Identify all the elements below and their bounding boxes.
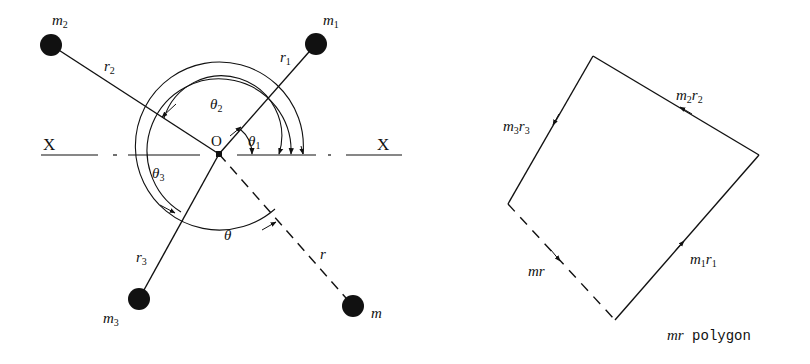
radius-r-dashed-line: [219, 154, 353, 306]
mr-polygon-diagram: m1r1 m2r2 m3r3 mr mr polygon: [503, 56, 759, 344]
x-axis-label-left: X: [43, 135, 55, 154]
label-theta2: θ2: [210, 96, 222, 114]
label-theta1: θ1: [248, 133, 260, 151]
theta-end-arrow-icon: [301, 146, 303, 154]
label-m2: m2: [52, 12, 68, 30]
mass-m3: [128, 288, 150, 310]
label-r2: r2: [104, 58, 115, 76]
vector-m2r2: [593, 56, 759, 155]
mass-m1: [305, 33, 327, 55]
vector-m1r1: [615, 155, 759, 320]
diagram-canvas: X X O m1 m2 m3 m r1 r2 r3 r: [0, 0, 810, 364]
label-m3: m3: [103, 310, 119, 328]
m2r2-arrow-icon: [680, 107, 692, 114]
balancing-masses-diagram: X X O m1 m2 m3 m r1 r2 r3 r: [40, 12, 402, 328]
mass-m2: [40, 34, 62, 56]
label-m3r3: m3r3: [503, 118, 530, 136]
label-m1r1: m1r1: [690, 251, 717, 269]
origin-label: O: [211, 133, 222, 149]
label-m2r2: m2r2: [676, 87, 703, 105]
label-m: m: [371, 305, 382, 321]
angle-theta2-arc: [164, 76, 282, 154]
label-theta3: θ3: [152, 165, 164, 183]
m3r3-arrow-icon: [553, 114, 559, 125]
label-r: r: [320, 246, 326, 262]
polygon-caption: mr polygon: [667, 327, 751, 344]
theta-arrow-icon: [262, 222, 276, 230]
m1r1-arrow-icon: [675, 241, 684, 251]
radius-r2-line: [51, 45, 219, 154]
mass-m: [342, 295, 364, 317]
vector-mr-dashed: [508, 204, 615, 320]
x-axis-label-right: X: [377, 135, 389, 154]
radius-r1-line: [219, 44, 316, 154]
label-r3: r3: [136, 249, 147, 267]
label-theta: θ: [224, 227, 232, 243]
origin-point: [216, 151, 222, 157]
label-m1: m1: [323, 12, 339, 30]
label-mr: mr: [528, 263, 545, 279]
mr-arrow-icon: [551, 250, 560, 261]
label-r1: r1: [280, 49, 291, 67]
